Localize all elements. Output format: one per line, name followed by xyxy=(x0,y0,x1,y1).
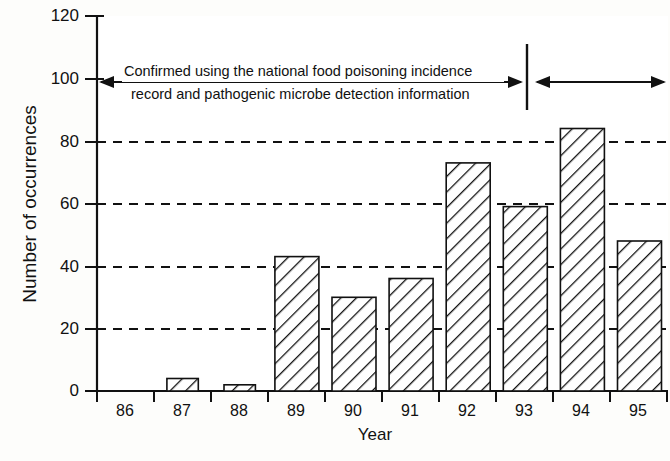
xtick-label-88: 88 xyxy=(230,402,248,419)
ytick-label-120: 120 xyxy=(51,6,79,25)
bar-91 xyxy=(446,163,490,391)
xtick-label-93: 93 xyxy=(515,402,533,419)
xtick-label-95: 95 xyxy=(629,402,647,419)
bar-chart-svg: 120 100 80 60 40 20 0 Number of occurren… xyxy=(0,0,670,461)
xtick-label-92: 92 xyxy=(458,402,476,419)
bar-92 xyxy=(503,207,547,391)
ytick-label-0: 0 xyxy=(70,381,79,400)
annotation-line-2: record and pathogenic microbe detection … xyxy=(131,86,470,102)
xtick-label-91: 91 xyxy=(401,402,419,419)
x-axis-title: Year xyxy=(358,425,393,444)
x-axis-tick-labels: 86 87 88 89 90 91 92 93 94 95 xyxy=(116,402,647,419)
bar-88 xyxy=(275,257,319,391)
ytick-label-20: 20 xyxy=(60,319,79,338)
bar-87 xyxy=(224,385,255,391)
xtick-label-86: 86 xyxy=(116,402,134,419)
x-axis-ticks xyxy=(97,391,667,402)
annotation-line-1: Confirmed using the national food poison… xyxy=(124,63,472,79)
bar-89 xyxy=(332,297,376,391)
xtick-label-90: 90 xyxy=(344,402,362,419)
bar-90 xyxy=(389,279,433,392)
ytick-label-40: 40 xyxy=(60,257,79,276)
y-axis-title: Number of occurrences xyxy=(19,105,40,302)
ytick-label-60: 60 xyxy=(60,194,79,213)
xtick-label-87: 87 xyxy=(173,402,191,419)
xtick-label-89: 89 xyxy=(287,402,305,419)
xtick-label-94: 94 xyxy=(572,402,590,419)
ytick-label-100: 100 xyxy=(51,69,79,88)
ytick-label-80: 80 xyxy=(60,132,79,151)
bar-93 xyxy=(560,129,604,392)
y-axis-tick-labels: 120 100 80 60 40 20 0 xyxy=(51,6,79,400)
bar-94 xyxy=(618,241,662,391)
chart-figure: 120 100 80 60 40 20 0 Number of occurren… xyxy=(0,0,670,461)
bar-86 xyxy=(167,379,198,392)
